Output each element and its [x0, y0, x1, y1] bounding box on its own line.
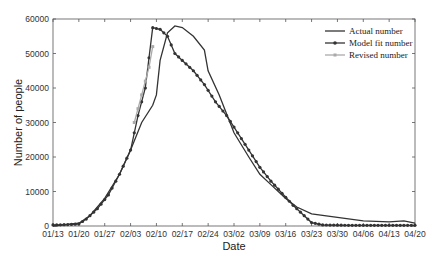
x-tick-label: 03/23 [301, 229, 323, 239]
x-tick-label: 01/20 [68, 229, 90, 239]
y-tick-label: 60000 [25, 14, 49, 24]
x-tick-label: 04/13 [379, 229, 401, 239]
x-axis-label: Date [222, 240, 245, 252]
x-tick-label: 01/27 [94, 229, 116, 239]
y-tick-label: 40000 [25, 83, 49, 93]
x-tick-label: 03/30 [327, 229, 349, 239]
x-tick-label: 02/10 [146, 229, 168, 239]
chart: 010000200003000040000500006000001/1301/2… [0, 0, 440, 264]
legend-label: Revised number [349, 50, 408, 60]
y-tick-label: 30000 [25, 118, 49, 128]
series-revised-number [133, 45, 154, 124]
legend: Actual numberModel fit numberRevised num… [325, 26, 413, 60]
x-tick-label: 04/06 [353, 229, 375, 239]
x-tick-label: 04/20 [404, 229, 426, 239]
y-tick-label: 50000 [25, 49, 49, 59]
y-tick-label: 20000 [25, 152, 49, 162]
x-tick-label: 02/03 [120, 229, 142, 239]
legend-label: Actual number [349, 26, 403, 36]
x-tick-label: 03/16 [275, 229, 297, 239]
legend-label: Model fit number [349, 38, 413, 48]
x-tick-label: 02/17 [172, 229, 194, 239]
x-tick-label: 02/24 [198, 229, 220, 239]
y-tick-label: 10000 [25, 187, 49, 197]
y-axis-label: Number of people [12, 79, 24, 166]
x-tick-label: 01/13 [42, 229, 64, 239]
x-tick-label: 03/09 [249, 229, 271, 239]
x-tick-label: 03/02 [223, 229, 245, 239]
